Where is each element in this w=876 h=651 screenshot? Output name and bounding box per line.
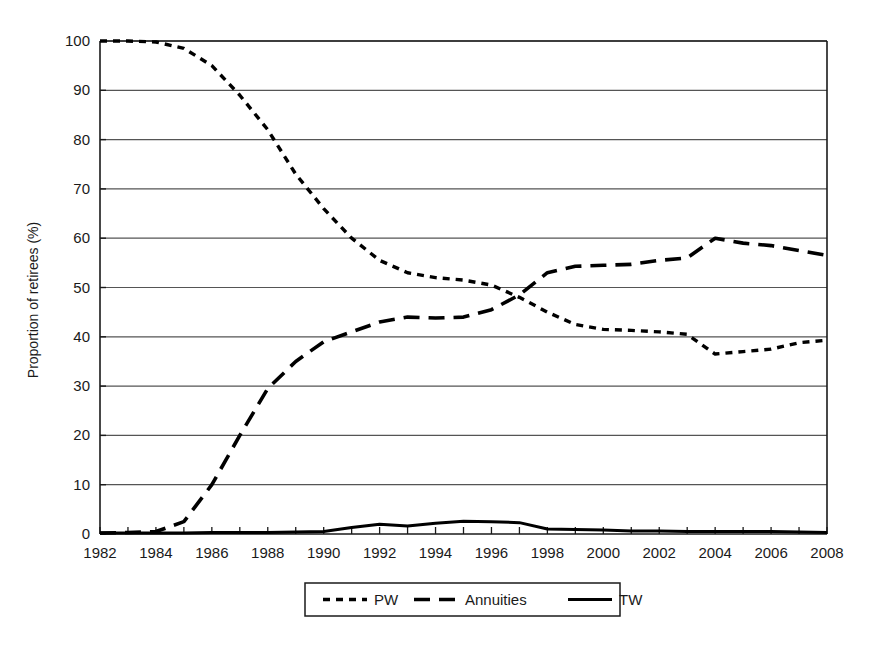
- line-chart: 0102030405060708090100 19821984198619881…: [0, 0, 876, 651]
- y-axis-tick-label: 30: [73, 377, 90, 394]
- y-axis-tick-label: 10: [73, 476, 90, 493]
- y-axis-tick-label: 100: [65, 32, 90, 49]
- y-axis-title: Proportion of retirees (%): [25, 222, 41, 378]
- x-axis-tick-label: 1994: [419, 544, 452, 561]
- y-axis-tick-label: 50: [73, 279, 90, 296]
- x-axis-tick-label: 2002: [643, 544, 676, 561]
- y-axis-tick-label: 90: [73, 81, 90, 98]
- y-axis-tick-label: 80: [73, 131, 90, 148]
- x-axis-tick-label: 1996: [475, 544, 508, 561]
- x-axis-tick-label: 1986: [195, 544, 228, 561]
- x-axis-tick-label: 2006: [754, 544, 787, 561]
- legend-label-tw: TW: [619, 591, 643, 608]
- x-axis-tick-label: 2008: [810, 544, 843, 561]
- legend-label-pw: PW: [374, 591, 399, 608]
- x-axis-tick-label: 2004: [698, 544, 731, 561]
- y-axis-tick-label: 20: [73, 426, 90, 443]
- chart-figure: 0102030405060708090100 19821984198619881…: [0, 0, 876, 651]
- x-axis-tick-label: 2000: [587, 544, 620, 561]
- chart-legend: PWAnnuitiesTW: [305, 583, 643, 616]
- x-axis-tick-label: 1992: [363, 544, 396, 561]
- y-axis-tick-label: 70: [73, 180, 90, 197]
- x-axis-tick-label: 1990: [307, 544, 340, 561]
- y-axis-tick-label: 40: [73, 328, 90, 345]
- x-axis-tick-label: 1988: [251, 544, 284, 561]
- legend-label-annuities: Annuities: [465, 591, 527, 608]
- x-axis-tick-label: 1984: [139, 544, 172, 561]
- x-axis-tick-label: 1998: [531, 544, 564, 561]
- y-axis-tick-label: 60: [73, 229, 90, 246]
- x-axis-tick-label: 1982: [83, 544, 116, 561]
- y-axis-tick-label: 0: [82, 525, 90, 542]
